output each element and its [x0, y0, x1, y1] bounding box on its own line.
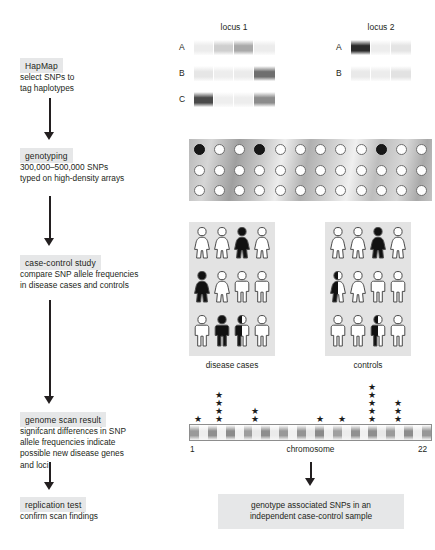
person-female-white	[213, 227, 231, 259]
person-male-white	[389, 271, 407, 303]
array-spot-empty	[295, 144, 306, 155]
haplotype-row-label-locus1-0: A	[179, 42, 185, 52]
person-female-white	[389, 227, 407, 259]
stage-tag-0: HapMap	[20, 58, 63, 73]
locus-title-locus1: locus 1	[192, 22, 276, 32]
chromosome-band	[190, 425, 199, 440]
haplotype-segment	[214, 66, 234, 81]
haplotype-segment	[234, 66, 254, 81]
chromosome-band	[342, 425, 351, 440]
chromosome-band	[404, 425, 413, 440]
chromosome-band	[226, 425, 235, 440]
locus-title-locus2: locus 2	[349, 22, 413, 32]
array-spot-empty	[194, 165, 205, 176]
down-arrow-icon-3	[44, 462, 56, 490]
chromosome-band	[368, 425, 377, 440]
person-female-white	[349, 227, 367, 259]
significance-star: ★	[316, 416, 324, 423]
stage-tag-1: genotyping	[20, 148, 73, 163]
person-male-white	[253, 315, 271, 347]
arrow-head	[44, 238, 54, 246]
significance-star: ★	[368, 384, 376, 391]
person-male-white	[389, 315, 407, 347]
array-spot-empty	[335, 144, 346, 155]
haplotype-segment	[391, 66, 411, 81]
significance-star: ★	[338, 416, 346, 423]
haplotype-segment	[234, 40, 254, 55]
significance-star: ★	[215, 400, 223, 407]
array-spot-filled	[376, 144, 387, 155]
cohort-caption-0: disease cases	[189, 360, 275, 370]
array-spot-empty	[194, 185, 205, 196]
arrow-head	[44, 482, 54, 490]
person-male-white	[369, 271, 387, 303]
haplotype-row-label-locus1-2: C	[179, 94, 185, 104]
arrow-shaft	[49, 196, 51, 239]
array-spot-empty	[376, 165, 387, 176]
chromosome-band	[270, 425, 279, 440]
array-spot-empty	[275, 185, 286, 196]
person-female-half	[329, 271, 347, 303]
array-spot-empty	[295, 185, 306, 196]
chromosome-ideogram	[189, 424, 432, 441]
chromosome-band	[324, 425, 333, 440]
significance-star: ★	[368, 400, 376, 407]
significance-star: ★	[251, 408, 259, 415]
chromosome-band	[279, 425, 288, 440]
array-spot-empty	[416, 185, 427, 196]
array-spot-empty	[275, 144, 286, 155]
replication-result-box: genotype associated SNPs in an independe…	[218, 494, 404, 529]
chromosome-axis-label: chromosome	[189, 444, 432, 454]
person-male-half	[369, 315, 387, 347]
array-spot-empty	[396, 165, 407, 176]
haplotype-bar-locus2-B	[349, 64, 413, 82]
haplotype-segment	[351, 66, 371, 81]
array-spot-empty	[254, 185, 265, 196]
array-spot-empty	[315, 165, 326, 176]
stage-description-4: confirm scan findings	[20, 511, 180, 522]
haplotype-bar-locus2-A	[349, 38, 413, 56]
array-spot-empty	[356, 185, 367, 196]
person-female-black	[193, 271, 211, 303]
down-arrow-icon-1	[44, 196, 56, 246]
array-spot-empty	[315, 185, 326, 196]
significance-star: ★	[394, 416, 402, 423]
array-spot-empty	[254, 165, 265, 176]
chromosome-band	[297, 425, 306, 440]
chromosome-band	[288, 425, 297, 440]
chromosome-band	[208, 425, 217, 440]
significance-star: ★	[194, 416, 202, 423]
cohort-panel-0	[189, 222, 275, 356]
down-arrow-icon-replication	[305, 462, 317, 486]
haplotype-segment	[391, 40, 411, 55]
arrow-shaft	[49, 462, 51, 483]
haplotype-segment	[371, 40, 391, 55]
significance-star: ★	[368, 392, 376, 399]
cohort-caption-1: controls	[325, 360, 411, 370]
haplotype-row-label-locus2-1: B	[336, 68, 342, 78]
person-male-white	[253, 271, 271, 303]
array-spot-empty	[416, 144, 427, 155]
person-male-white	[349, 315, 367, 347]
chromosome-band	[217, 425, 226, 440]
haplotype-bar-locus1-A	[192, 38, 276, 56]
array-spot-empty	[396, 144, 407, 155]
haplotype-segment	[254, 40, 274, 55]
array-spot-empty	[214, 144, 225, 155]
arrow-shaft	[49, 300, 51, 397]
arrow-shaft	[49, 98, 51, 133]
chromosome-band	[235, 425, 244, 440]
array-spot-empty	[214, 165, 225, 176]
array-spot-empty	[416, 165, 427, 176]
array-spot-empty	[356, 144, 367, 155]
chromosome-band	[395, 425, 404, 440]
person-female-white	[349, 271, 367, 303]
significance-star: ★	[394, 408, 402, 415]
cohort-panel-1	[325, 222, 411, 356]
array-spot-empty	[234, 144, 245, 155]
stage-description-0: select SNPs to tag haplotypes	[20, 72, 180, 94]
haplotype-segment	[371, 66, 391, 81]
array-spot-empty	[275, 165, 286, 176]
haplotype-row-label-locus1-1: B	[179, 68, 185, 78]
chromosome-band	[413, 425, 422, 440]
